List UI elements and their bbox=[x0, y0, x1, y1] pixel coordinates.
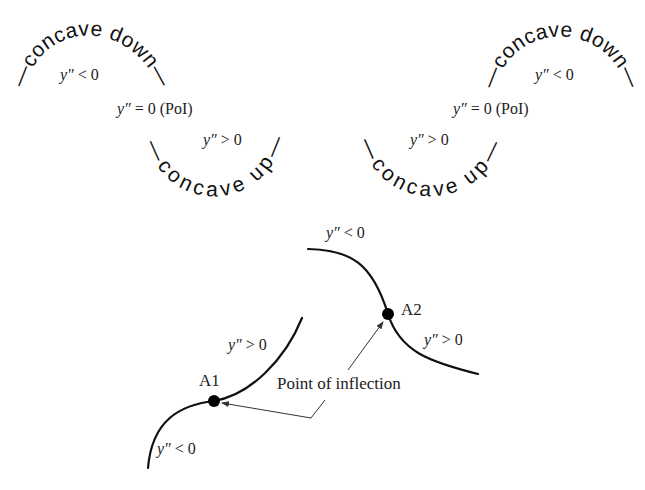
second-derivative-negative-label: y″ < 0 bbox=[533, 66, 574, 84]
arrow-to-a2 bbox=[348, 322, 383, 370]
arrow-to-a1 bbox=[222, 400, 325, 418]
inflection-condition-label: y″ = 0 (PoI) bbox=[115, 100, 193, 118]
point-label-a1: A1 bbox=[199, 371, 220, 390]
inflection-point-a2 bbox=[382, 308, 394, 320]
second-derivative-negative-label: y″ < 0 bbox=[58, 66, 99, 84]
second-derivative-positive-label: y″ > 0 bbox=[408, 131, 449, 149]
inflection-point-a1 bbox=[208, 395, 220, 407]
inflection-condition-label: y″ = 0 (PoI) bbox=[451, 100, 529, 118]
point-label-a2: A2 bbox=[401, 300, 422, 319]
concavity-diagram: —concave down— —concave up— y″ < 0 y″ = … bbox=[0, 0, 645, 490]
curve1-upper-concavity-label: y″ > 0 bbox=[226, 336, 267, 354]
second-derivative-positive-label: y″ > 0 bbox=[201, 131, 242, 149]
curve2-lower-concavity-label: y″ > 0 bbox=[422, 331, 463, 349]
top-left-diagram: —concave down— —concave up— y″ < 0 y″ = … bbox=[6, 16, 289, 200]
bottom-diagram: A1 y″ > 0 y″ < 0 A2 y″ < 0 y″ > 0 Point … bbox=[148, 224, 478, 468]
top-right-diagram: —concave down— —concave up— y″ < 0 y″ = … bbox=[356, 17, 645, 200]
point-of-inflection-annotation: Point of inflection bbox=[277, 374, 401, 393]
curve2-upper-concavity-label: y″ < 0 bbox=[324, 224, 365, 242]
curve1-lower-concavity-label: y″ < 0 bbox=[155, 440, 196, 458]
